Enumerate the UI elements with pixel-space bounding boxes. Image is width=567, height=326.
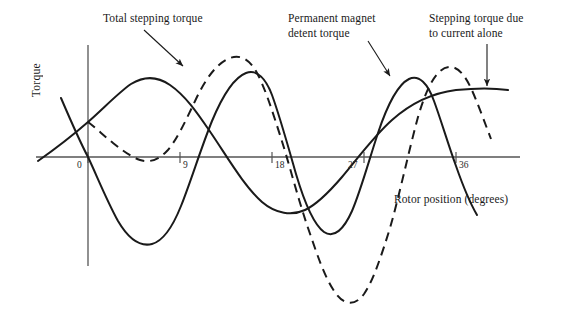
x-tick-label-18: 18 [275, 160, 285, 170]
leader-total-stepping-torque [144, 30, 183, 66]
annotation-stepping-torque-current-alone: Stepping torque due to current alone [429, 11, 524, 41]
x-tick-label-9: 9 [183, 160, 188, 170]
leader-permanent-magnet [368, 41, 390, 76]
annotation-total-stepping-torque: Total stepping torque [103, 11, 203, 26]
y-axis-label: Torque [30, 63, 42, 97]
x-tick-label-36: 36 [459, 160, 469, 170]
annotation-permanent-magnet-detent-torque: Permanent magnet detent torque [288, 11, 376, 41]
x-tick-label-0: 0 [77, 160, 82, 170]
curve-stepping-torque-current-alone [61, 72, 477, 244]
x-axis-label: Rotor position (degrees) [394, 192, 508, 207]
x-tick-label-27: 27 [348, 160, 358, 170]
axes-group [36, 45, 520, 266]
figure-canvas: Total stepping torque Permanent magnet d… [0, 0, 567, 326]
